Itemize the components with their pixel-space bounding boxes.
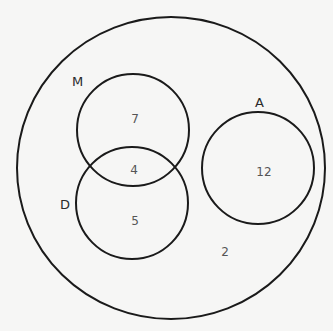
venn-diagram: M D A 7 4 5 12 2	[0, 0, 333, 331]
region-a-only: 12	[256, 165, 271, 179]
region-m-only: 7	[131, 112, 139, 126]
region-d-only: 5	[131, 214, 139, 228]
region-outside-all: 2	[221, 245, 229, 259]
set-m-label: M	[72, 74, 83, 89]
universe-circle	[17, 17, 325, 319]
set-a-label: A	[255, 95, 264, 110]
region-m-and-d: 4	[130, 163, 138, 177]
set-d-label: D	[60, 197, 70, 212]
